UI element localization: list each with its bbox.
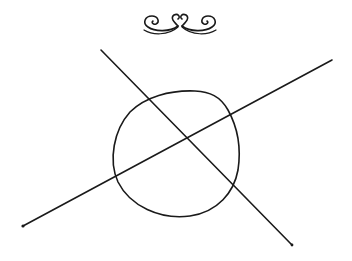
line-upper-left-to-lower-right xyxy=(101,50,292,245)
drawing-canvas xyxy=(0,0,352,261)
line-lower-left-to-upper-right xyxy=(23,60,332,226)
line-end-dot xyxy=(21,224,24,227)
hand-drawn-circle xyxy=(113,91,239,217)
ornament-flourish-icon xyxy=(144,14,216,33)
line-end-dot xyxy=(291,244,294,247)
